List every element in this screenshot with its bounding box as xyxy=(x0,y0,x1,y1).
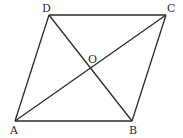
label-c: C xyxy=(167,2,175,15)
diagonal-bd xyxy=(49,15,132,121)
label-a: A xyxy=(9,124,19,137)
label-b: B xyxy=(129,124,137,137)
parallelogram-diagram: D C O A B xyxy=(0,0,183,138)
side-da xyxy=(15,15,49,121)
label-d: D xyxy=(42,2,51,15)
side-bc xyxy=(132,15,166,121)
label-o: O xyxy=(88,53,97,66)
